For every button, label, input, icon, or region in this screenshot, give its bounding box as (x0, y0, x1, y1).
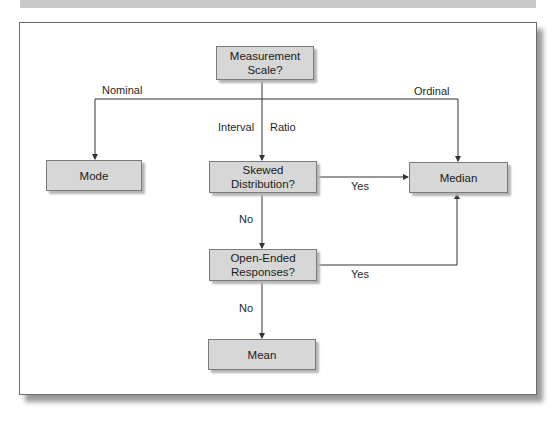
node-measurement-scale: MeasurementScale? (216, 46, 314, 80)
label-open-no: No (239, 302, 253, 314)
label-ordinal: Ordinal (414, 85, 449, 97)
label-skewed-yes: Yes (351, 180, 369, 192)
node-skewed-distribution: SkewedDistribution? (209, 161, 317, 193)
edge-open-yes (317, 194, 457, 265)
node-mean: Mean (208, 339, 316, 370)
label-nominal: Nominal (102, 84, 142, 96)
node-mode: Mode (46, 160, 142, 191)
node-open-ended-responses: Open-EndedResponses? (209, 249, 317, 281)
label-skewed-no: No (239, 213, 253, 225)
node-median: Median (409, 162, 508, 193)
label-open-yes: Yes (351, 268, 369, 280)
label-interval: Interval (218, 121, 254, 133)
label-ratio: Ratio (270, 121, 296, 133)
